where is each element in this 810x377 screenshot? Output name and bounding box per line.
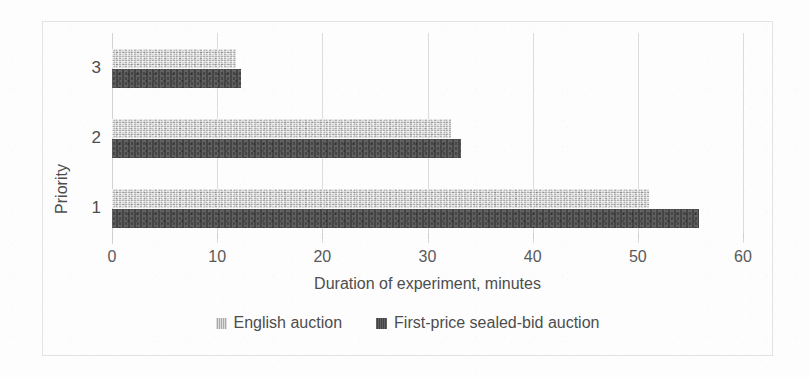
x-tick-mark-0 (112, 233, 113, 239)
chart-legend: English auctionFirst-price sealed-bid au… (43, 314, 772, 332)
bar-priority-2-first-price-sealed-bid-auction (112, 139, 461, 158)
x-tick-mark-40 (533, 233, 534, 239)
x-tick-label-30: 30 (419, 248, 437, 266)
bar-priority-3-first-price-sealed-bid-auction (112, 69, 241, 88)
chart-page: Priority 0102030405060 123 Duration of e… (0, 0, 810, 377)
x-tick-label-0: 0 (108, 248, 117, 266)
y-axis-title: Priority (53, 164, 71, 214)
y-tick-label-3: 3 (81, 58, 101, 78)
y-tick-label-1: 1 (81, 198, 101, 218)
x-tick-mark-60 (743, 233, 744, 239)
x-tick-label-50: 50 (629, 248, 647, 266)
chart-frame: Priority 0102030405060 123 Duration of e… (42, 21, 773, 356)
x-tick-label-20: 20 (313, 248, 331, 266)
legend-item-english-auction[interactable]: English auction (216, 314, 343, 332)
dark-gray-square-icon (376, 318, 387, 329)
bar-priority-2-english-auction (112, 119, 451, 138)
x-tick-label-40: 40 (524, 248, 542, 266)
x-tick-mark-10 (217, 233, 218, 239)
x-tick-mark-20 (322, 233, 323, 239)
x-axis-title: Duration of experiment, minutes (112, 275, 743, 293)
gridline-x-60 (743, 33, 744, 243)
legend-item-label: First-price sealed-bid auction (394, 314, 599, 332)
light-gray-square-icon (216, 318, 227, 329)
plot-area (112, 33, 743, 243)
x-tick-mark-50 (638, 233, 639, 239)
bar-priority-3-english-auction (112, 49, 236, 68)
legend-item-label: English auction (234, 314, 343, 332)
x-tick-label-10: 10 (208, 248, 226, 266)
y-tick-label-2: 2 (81, 128, 101, 148)
legend-item-first-price-sealed-bid-auction[interactable]: First-price sealed-bid auction (376, 314, 599, 332)
x-tick-mark-30 (428, 233, 429, 239)
x-tick-label-60: 60 (734, 248, 752, 266)
bar-priority-1-english-auction (112, 189, 649, 208)
bar-priority-1-first-price-sealed-bid-auction (112, 209, 699, 228)
